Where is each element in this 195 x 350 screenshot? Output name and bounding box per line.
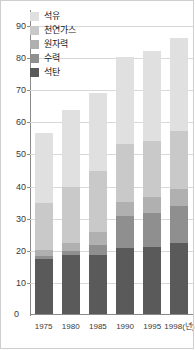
bar-segment: [170, 38, 188, 131]
legend-item-label: 석탄: [44, 67, 60, 78]
bar-segment: [170, 189, 188, 207]
y-axis-tick: [27, 251, 30, 252]
y-axis-tick: [27, 283, 30, 284]
gridline: [30, 154, 193, 155]
legend-item[interactable]: 천연가스: [30, 24, 108, 37]
bar-segment: [62, 110, 80, 187]
bar-segment: [35, 259, 53, 314]
bar-segment: [143, 247, 161, 314]
gridline: [30, 283, 193, 284]
legend-item-label: 수력: [44, 53, 60, 64]
x-axis-labels: 197519801985199019951998(년): [30, 320, 193, 336]
bar-segment: [89, 93, 107, 172]
legend-swatch-icon: [30, 26, 39, 35]
legend-item[interactable]: 석유: [30, 10, 108, 23]
y-axis-tick: [27, 90, 30, 91]
bar-stack: [35, 133, 53, 314]
bar-segment: [143, 197, 161, 213]
y-axis-tick: [27, 187, 30, 188]
chart-legend: 석유천연가스원자력수력석탄: [30, 10, 108, 80]
gridline: [30, 251, 193, 252]
bar-segment: [89, 171, 107, 232]
bar-segment: [170, 206, 188, 243]
x-axis-tick-label: 1998(년): [157, 322, 195, 332]
y-axis-tick: [27, 122, 30, 123]
gridline: [30, 219, 193, 220]
legend-swatch-icon: [30, 12, 39, 21]
legend-swatch-icon: [30, 68, 39, 77]
bar-segment: [143, 141, 161, 197]
bar-segment: [116, 248, 134, 314]
legend-item[interactable]: 석탄: [30, 66, 108, 79]
y-axis-tick-label: 60: [16, 118, 26, 127]
y-axis-labels: 102030405060708090: [0, 0, 26, 350]
bar-segment: [89, 232, 107, 245]
y-axis-tick: [27, 154, 30, 155]
bar-segment: [89, 255, 107, 314]
legend-item-label: 석유: [44, 11, 60, 22]
y-axis-tick: [27, 58, 30, 59]
y-axis-tick-label: 50: [16, 150, 26, 159]
y-axis-tick-label: 10: [16, 279, 26, 288]
bar-stack: [116, 57, 134, 314]
bar-segment: [62, 255, 80, 314]
y-axis-tick-label: 30: [16, 215, 26, 224]
gridline: [30, 122, 193, 123]
bar-stack: [170, 38, 188, 314]
bar-segment: [116, 144, 134, 202]
y-axis-tick-label: 90: [16, 22, 26, 31]
stacked-bar-chart: 102030405060708090 0 1975198019851990199…: [0, 0, 195, 350]
bar-segment: [62, 187, 80, 243]
bar-stack: [62, 110, 80, 314]
bar-segment: [35, 133, 53, 204]
legend-item[interactable]: 수력: [30, 52, 108, 65]
y-axis-tick-label: 40: [16, 183, 26, 192]
legend-swatch-icon: [30, 54, 39, 63]
legend-item-label: 천연가스: [44, 25, 76, 36]
gridline: [30, 187, 193, 188]
bar-segment: [35, 203, 53, 250]
bar-segment: [62, 243, 80, 251]
y-axis-tick: [27, 219, 30, 220]
y-axis-zero-label: 0: [14, 310, 19, 319]
bar-segment: [170, 131, 188, 189]
y-axis-tick-label: 20: [16, 247, 26, 256]
gridline: [30, 90, 193, 91]
bar-stack: [143, 51, 161, 314]
legend-item[interactable]: 원자력: [30, 38, 108, 51]
y-axis-tick-label: 80: [16, 54, 26, 63]
legend-swatch-icon: [30, 40, 39, 49]
bar-segment: [143, 213, 161, 247]
x-axis-baseline: [30, 314, 193, 315]
bar-segment: [143, 51, 161, 141]
bar-segment: [170, 243, 188, 314]
bar-segment: [89, 245, 107, 255]
bar-segment: [116, 216, 134, 248]
y-axis-tick: [27, 26, 30, 27]
bar-segment: [116, 202, 134, 216]
y-axis-tick-label: 70: [16, 86, 26, 95]
legend-item-label: 원자력: [44, 39, 68, 50]
bar-segment: [116, 57, 134, 144]
bar-stack: [89, 93, 107, 315]
